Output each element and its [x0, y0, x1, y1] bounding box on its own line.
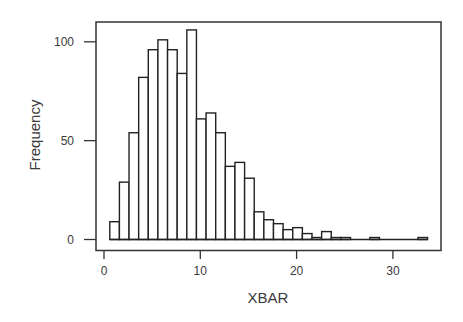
- histogram-bar: [110, 222, 120, 240]
- x-tick-label: 0: [101, 264, 108, 278]
- y-tick-label: 100: [54, 35, 74, 49]
- histogram-bar: [158, 40, 168, 240]
- histogram-bar: [206, 113, 216, 240]
- x-axis-label: XBAR: [248, 289, 289, 306]
- histogram-bar: [177, 73, 187, 239]
- histogram-bar: [235, 162, 245, 239]
- histogram-bar: [293, 228, 303, 240]
- histogram-bar: [322, 232, 332, 240]
- histogram-bars: [110, 30, 428, 240]
- y-tick-label: 0: [67, 233, 74, 247]
- histogram-bar: [119, 182, 129, 239]
- histogram-bar: [139, 77, 149, 239]
- x-tick-label: 30: [386, 264, 400, 278]
- x-tick-label: 20: [290, 264, 304, 278]
- histogram-bar: [129, 133, 139, 240]
- histogram-chart: 050100 0102030 XBAR Frequency: [0, 0, 463, 322]
- histogram-bar: [283, 230, 293, 240]
- histogram-bar: [254, 212, 264, 240]
- y-axis: 050100: [54, 35, 96, 247]
- histogram-bar: [302, 234, 312, 240]
- histogram-bar: [168, 50, 178, 240]
- histogram-bar: [148, 50, 158, 240]
- histogram-bar: [196, 119, 206, 240]
- x-tick-label: 10: [194, 264, 208, 278]
- x-axis: 0102030: [101, 251, 400, 279]
- histogram-bar: [273, 224, 283, 240]
- y-tick-label: 50: [61, 134, 75, 148]
- histogram-bar: [264, 220, 274, 240]
- histogram-bar: [245, 178, 255, 239]
- y-axis-label: Frequency: [26, 99, 43, 170]
- histogram-bar: [225, 166, 235, 239]
- histogram-bar: [216, 133, 226, 240]
- histogram-bar: [187, 30, 197, 240]
